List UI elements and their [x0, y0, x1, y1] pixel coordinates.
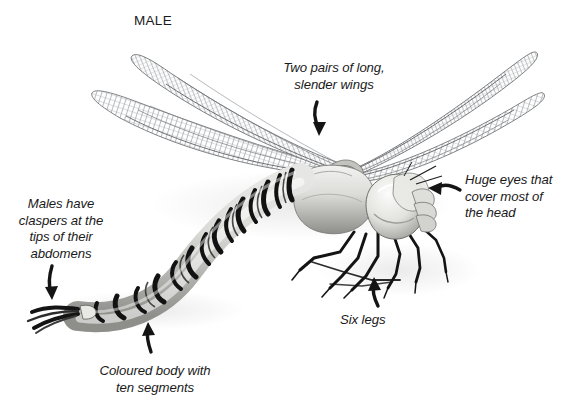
- sex-label-male: MALE: [134, 13, 172, 30]
- right-hindwing: [356, 93, 544, 182]
- wings-arrow: [313, 102, 326, 136]
- dragonfly-figure: MALE Two pairs of long, slender wings Hu…: [0, 0, 582, 412]
- claspers-arrow: [45, 266, 58, 300]
- annotation-label-wings: Two pairs of long, slender wings: [272, 60, 396, 93]
- annotation-label-claspers: Males have claspers at the tips of their…: [8, 196, 114, 262]
- annotation-label-legs: Six legs: [340, 312, 430, 329]
- annotation-label-eyes: Huge eyes that cover most of the head: [465, 172, 581, 222]
- annotation-label-body: Coloured body with ten segments: [70, 363, 240, 396]
